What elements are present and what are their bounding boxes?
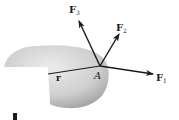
scan-mark [13,113,17,120]
label-point-a: A [94,71,101,81]
force-f2-arrow [100,34,119,66]
label-r: r [56,74,61,83]
force-diagram: F3 F2 F1 A r [0,0,179,120]
label-f3: F3 [69,5,80,16]
section-cutout [0,67,48,120]
label-f1: F1 [156,73,167,84]
diagram-graphic [0,0,179,120]
label-f2: F2 [116,23,127,34]
